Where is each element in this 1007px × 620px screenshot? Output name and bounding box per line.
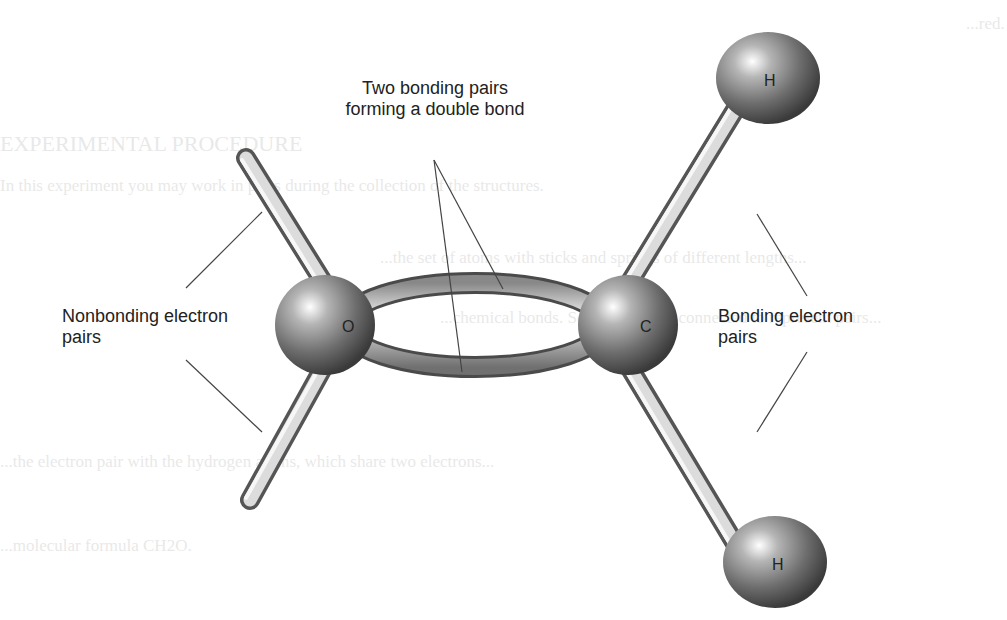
leader-bonding-lower (757, 352, 807, 432)
leader-nonbonding-upper (186, 212, 262, 288)
nonbonding-stick-lower (246, 370, 322, 500)
label-double-bond: Two bonding pairs forming a double bond (310, 78, 560, 120)
label-nonbonding-line1: Nonbonding electron (62, 306, 228, 327)
label-double-bond-line2: forming a double bond (310, 99, 560, 120)
label-nonbonding-line2: pairs (62, 327, 228, 348)
bond-stick-c-h-upper (621, 108, 735, 290)
svg-text:O: O (342, 318, 354, 335)
svg-text:H: H (764, 72, 776, 89)
atom-carbon: C (578, 275, 678, 375)
leader-double-bond-upper (434, 160, 503, 289)
atom-hydrogen-lower: H (723, 516, 827, 608)
atom-oxygen: O (275, 275, 375, 375)
label-bonding-line2: pairs (718, 327, 853, 348)
label-bonding-line1: Bonding electron (718, 306, 853, 327)
label-double-bond-line1: Two bonding pairs (310, 78, 560, 99)
leader-bonding-upper (757, 214, 807, 296)
label-nonbonding-pairs: Nonbonding electron pairs (62, 306, 228, 348)
double-bond-ring (345, 283, 605, 367)
svg-text:C: C (640, 318, 652, 335)
label-bonding-pairs: Bonding electron pairs (718, 306, 853, 348)
atom-hydrogen-upper: H (716, 32, 820, 124)
leader-double-bond-lower (434, 160, 462, 372)
bond-stick-c-h-lower (621, 360, 745, 562)
svg-text:H: H (772, 556, 784, 573)
leader-nonbonding-lower (186, 360, 262, 432)
